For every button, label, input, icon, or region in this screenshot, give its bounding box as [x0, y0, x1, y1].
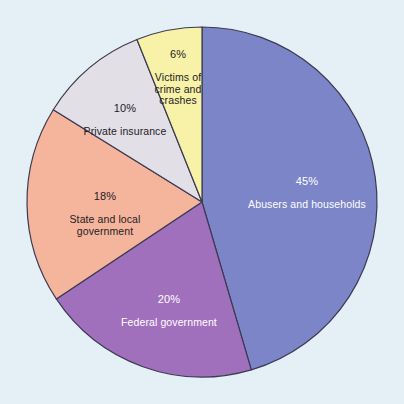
- pie-chart-svg: [0, 0, 404, 404]
- pie-chart-figure: 45% Abusers and households 20% Federal g…: [0, 0, 404, 404]
- pie-slice-group: [27, 27, 377, 377]
